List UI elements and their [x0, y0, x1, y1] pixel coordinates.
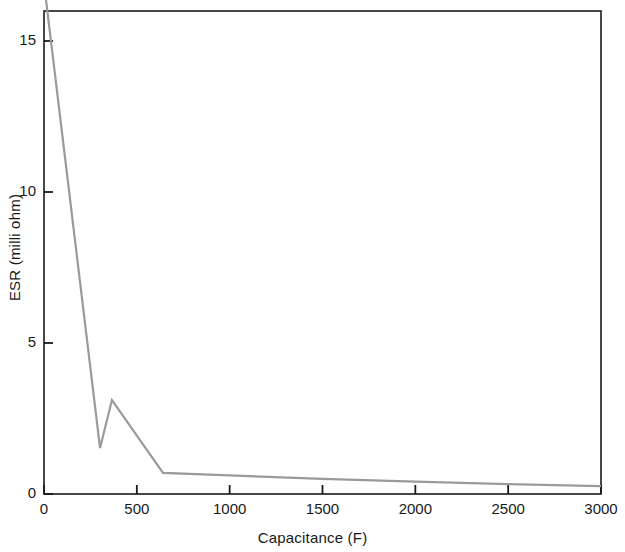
- chart-container: ESR (milli ohm) Capacitance (F) 051015 0…: [0, 0, 625, 552]
- data-series-group: [46, 0, 601, 486]
- x-axis-title: Capacitance (F): [0, 529, 625, 546]
- x-tick-label: 0: [14, 500, 74, 517]
- y-tick-label: 15: [2, 31, 36, 48]
- x-tick-label: 2000: [385, 500, 445, 517]
- y-tick-label: 0: [2, 484, 36, 501]
- chart-plot-area: [0, 0, 625, 552]
- x-tick-label: 2500: [478, 500, 538, 517]
- y-tick-label: 10: [2, 182, 36, 199]
- data-line: [46, 0, 601, 486]
- x-tick-label: 1500: [293, 500, 353, 517]
- x-tick-label: 500: [107, 500, 167, 517]
- x-tick-label: 3000: [571, 500, 625, 517]
- y-axis-title-wrapper: ESR (milli ohm): [0, 0, 30, 494]
- y-axis-title: ESR (milli ohm): [7, 193, 24, 300]
- axis-ticks: [44, 41, 601, 494]
- x-tick-label: 1000: [200, 500, 260, 517]
- y-tick-label: 5: [2, 333, 36, 350]
